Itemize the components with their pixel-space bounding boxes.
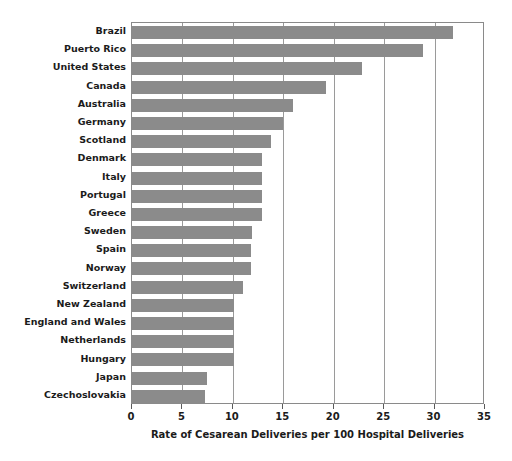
x-tick-mark (232, 404, 233, 409)
x-tick-label: 5 (178, 411, 185, 422)
category-label: Germany (0, 116, 126, 127)
bar-rows (132, 23, 483, 403)
x-tick-label: 0 (128, 411, 135, 422)
category-label: Australia (0, 98, 126, 109)
bar (132, 262, 251, 275)
bar (132, 153, 262, 166)
bar (132, 26, 453, 39)
x-tick-label: 30 (427, 411, 441, 422)
category-label: Spain (0, 243, 126, 254)
bar (132, 135, 271, 148)
bar (132, 335, 234, 348)
bar (132, 372, 207, 385)
bar-row (132, 150, 483, 168)
bar (132, 190, 262, 203)
bar-row (132, 223, 483, 241)
category-label: Canada (0, 80, 126, 91)
category-label: Netherlands (0, 334, 126, 345)
category-label: United States (0, 61, 126, 72)
cesarean-rate-bar-chart: BrazilPuerto RicoUnited StatesCanadaAust… (0, 0, 512, 461)
category-label: England and Wales (0, 316, 126, 327)
bar-row (132, 332, 483, 350)
bar-row (132, 241, 483, 259)
x-tick-mark (383, 404, 384, 409)
x-tick-mark (181, 404, 182, 409)
x-tick-label: 15 (275, 411, 289, 422)
bar (132, 81, 326, 94)
x-tick-label: 20 (326, 411, 340, 422)
bar (132, 62, 362, 75)
category-label: Norway (0, 262, 126, 273)
bar (132, 244, 251, 257)
bar (132, 281, 243, 294)
bar (132, 208, 262, 221)
bar-row (132, 169, 483, 187)
bar-row (132, 59, 483, 77)
x-tick-label: 35 (477, 411, 491, 422)
category-label: Sweden (0, 225, 126, 236)
bar (132, 299, 234, 312)
bar (132, 99, 293, 112)
bar-row (132, 132, 483, 150)
x-axis: 05101520253035 (131, 404, 484, 428)
category-label: Italy (0, 171, 126, 182)
x-tick-mark (484, 404, 485, 409)
category-label: Japan (0, 371, 126, 382)
x-tick-label: 25 (376, 411, 390, 422)
category-label: Switzerland (0, 280, 126, 291)
bar (132, 226, 252, 239)
bar-row (132, 78, 483, 96)
bar-row (132, 114, 483, 132)
bar (132, 390, 205, 403)
bar-row (132, 205, 483, 223)
bar-row (132, 314, 483, 332)
plot-area (131, 22, 484, 404)
category-label: Denmark (0, 152, 126, 163)
bar-row (132, 350, 483, 368)
category-axis-labels: BrazilPuerto RicoUnited StatesCanadaAust… (0, 22, 126, 404)
x-axis-title: Rate of Cesarean Deliveries per 100 Hosp… (131, 429, 484, 440)
category-label: New Zealand (0, 298, 126, 309)
category-label: Greece (0, 207, 126, 218)
bar-row (132, 296, 483, 314)
x-tick-mark (333, 404, 334, 409)
x-tick-mark (434, 404, 435, 409)
bar (132, 317, 234, 330)
x-tick-label: 10 (225, 411, 239, 422)
bar-row (132, 369, 483, 387)
bar-row (132, 387, 483, 405)
bar-row (132, 96, 483, 114)
bar (132, 172, 262, 185)
category-label: Portugal (0, 189, 126, 200)
bar-row (132, 187, 483, 205)
bar (132, 353, 234, 366)
category-label: Scotland (0, 134, 126, 145)
bar (132, 44, 423, 57)
category-label: Brazil (0, 25, 126, 36)
bar-row (132, 23, 483, 41)
x-tick-mark (282, 404, 283, 409)
bar-row (132, 259, 483, 277)
category-label: Czechoslovakia (0, 389, 126, 400)
bar-row (132, 41, 483, 59)
category-label: Hungary (0, 353, 126, 364)
bar (132, 117, 283, 130)
bar-row (132, 278, 483, 296)
x-tick-mark (131, 404, 132, 409)
category-label: Puerto Rico (0, 43, 126, 54)
